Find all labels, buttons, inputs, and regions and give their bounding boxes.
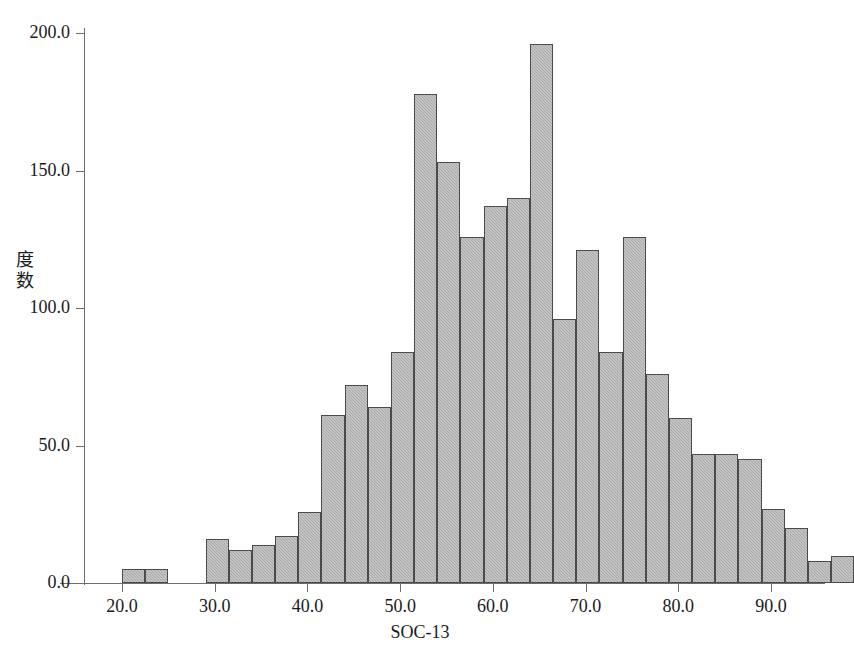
y-axis-tick-label: 0.0	[0, 573, 70, 591]
y-axis-title: 度数	[12, 250, 38, 292]
histogram-bar	[646, 374, 669, 583]
histogram-bar	[206, 539, 229, 583]
histogram-bar	[229, 550, 252, 583]
y-axis-tick-mark	[76, 171, 85, 172]
x-axis-tick-label: 50.0	[350, 596, 450, 616]
x-axis-tick-mark	[215, 583, 216, 592]
y-axis-tick-label: 100.0	[0, 298, 70, 316]
x-axis-tick-mark	[493, 583, 494, 592]
x-axis-tick-label: 30.0	[165, 596, 265, 616]
y-axis-tick-mark	[76, 308, 85, 309]
histogram-bar	[808, 561, 831, 583]
histogram-bar	[785, 528, 808, 583]
x-axis-tick-mark	[307, 583, 308, 592]
histogram-bar	[122, 569, 145, 583]
y-axis-tick-label: 150.0	[0, 161, 70, 179]
histogram-bar	[553, 319, 576, 583]
x-axis-tick-mark	[586, 583, 587, 592]
x-axis-tick-label: 20.0	[72, 596, 172, 616]
histogram-bar	[298, 512, 321, 584]
x-axis-title: SOC-13	[0, 622, 840, 643]
x-axis-tick-mark	[400, 583, 401, 592]
histogram-bar	[599, 352, 622, 583]
histogram-bar	[275, 536, 298, 583]
histogram-bar	[762, 509, 785, 583]
plot-area	[85, 33, 808, 583]
x-axis-tick-label: 90.0	[721, 596, 821, 616]
x-axis-tick-mark	[122, 583, 123, 592]
histogram-bar	[576, 250, 599, 583]
x-axis-tick-label: 80.0	[628, 596, 728, 616]
histogram-bar	[484, 206, 507, 583]
histogram-bar	[252, 545, 275, 584]
y-axis-tick-label: 200.0	[0, 23, 70, 41]
x-axis-tick-label: 70.0	[536, 596, 636, 616]
histogram-bar	[460, 237, 483, 584]
x-axis-tick-mark	[678, 583, 679, 592]
y-axis-tick-mark	[76, 446, 85, 447]
histogram-bar	[414, 94, 437, 584]
histogram-bar	[368, 407, 391, 583]
histogram-bar	[692, 454, 715, 583]
histogram-bar	[321, 415, 344, 583]
histogram-bar	[623, 237, 646, 584]
x-axis-line	[60, 583, 825, 584]
histogram-bar	[507, 198, 530, 583]
histogram-bar	[530, 44, 553, 583]
histogram-bar	[145, 569, 168, 583]
histogram-bar	[345, 385, 368, 583]
y-axis-tick-mark	[76, 33, 85, 34]
histogram-bar	[437, 162, 460, 583]
histogram-bar	[738, 459, 761, 583]
histogram-bar	[715, 454, 738, 583]
histogram-bar	[391, 352, 414, 583]
y-axis-tick-mark	[76, 583, 85, 584]
histogram-bar	[669, 418, 692, 583]
x-axis-tick-label: 40.0	[257, 596, 357, 616]
y-axis-line	[84, 28, 85, 585]
x-axis-tick-label: 60.0	[443, 596, 543, 616]
y-axis-tick-label: 50.0	[0, 436, 70, 454]
histogram-bar	[831, 556, 854, 584]
x-axis-tick-mark	[771, 583, 772, 592]
